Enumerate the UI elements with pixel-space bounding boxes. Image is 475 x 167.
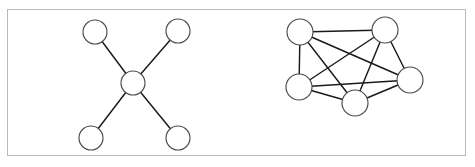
nodes-layer [79,17,423,150]
graph-edge-K2-K5 [299,30,385,87]
complete-node-top-right [372,17,398,43]
star-node-top-left [83,20,107,44]
star-node-center [121,71,145,95]
graph-edge-K3-K5 [299,80,410,87]
star-node-top-right [166,19,190,43]
complete-node-top-left [287,19,313,45]
graph-diagrams [0,0,475,167]
complete-node-bottom-center [342,90,368,116]
star-node-bottom-left [79,126,103,150]
star-node-bottom-right [166,126,190,150]
screenshot-stage [0,0,475,167]
complete-node-bottom-left [286,74,312,100]
complete-node-right [397,67,423,93]
